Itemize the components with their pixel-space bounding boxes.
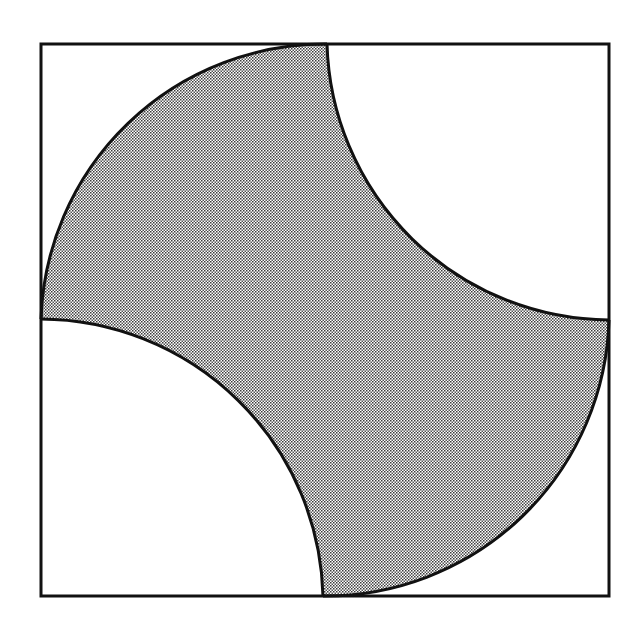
geometry-diagram: [0, 0, 640, 623]
